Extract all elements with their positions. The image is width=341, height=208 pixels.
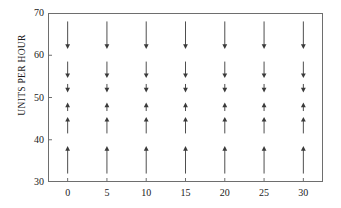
- x-tick-label: 20: [213, 187, 237, 198]
- y-tick-label: 60: [22, 49, 44, 60]
- y-tick-label: 40: [22, 134, 44, 145]
- y-tick-label: 70: [22, 7, 44, 18]
- x-tick-label: 10: [134, 187, 158, 198]
- x-tick-label: 30: [291, 187, 315, 198]
- x-tick-label: 0: [56, 187, 80, 198]
- y-axis-label: UNITS PER HOUR: [17, 5, 27, 145]
- x-tick-label: 25: [252, 187, 276, 198]
- x-tick-label: 5: [95, 187, 119, 198]
- x-tick-label: 15: [174, 187, 198, 198]
- chart-figure: UNITS PER HOUR 3040506070 051015202530: [0, 0, 341, 208]
- y-tick-label: 50: [22, 92, 44, 103]
- plot-area: [48, 13, 323, 182]
- y-tick-label: 30: [22, 176, 44, 187]
